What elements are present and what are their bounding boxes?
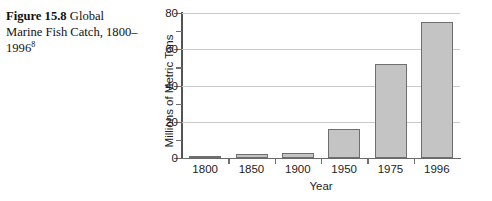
y-tick-label-60: 60 bbox=[148, 43, 178, 55]
y-tick-label-40: 40 bbox=[148, 80, 178, 92]
bar-chart: Millions of Metric Tons 020406080 180018… bbox=[150, 0, 492, 201]
y-tick-minor-70 bbox=[176, 31, 182, 32]
y-tick-minor-50 bbox=[176, 67, 182, 68]
figure-footnote-marker: 8 bbox=[31, 40, 35, 49]
x-tick-label-1850: 1850 bbox=[228, 163, 274, 175]
bar-slot-1850 bbox=[236, 13, 268, 158]
bar-series bbox=[182, 13, 460, 158]
bar-1975[interactable] bbox=[375, 64, 407, 158]
y-tick-minor-30 bbox=[176, 104, 182, 105]
y-tick-label-80: 80 bbox=[148, 7, 178, 19]
figure-caption: Figure 15.8 Global Marine Fish Catch, 18… bbox=[6, 8, 138, 57]
x-tick-label-1975: 1975 bbox=[367, 163, 413, 175]
bar-slot-1800 bbox=[189, 13, 221, 158]
bar-slot-1950 bbox=[328, 13, 360, 158]
x-tick-label-1900: 1900 bbox=[275, 163, 321, 175]
y-tick-label-20: 20 bbox=[148, 116, 178, 128]
figure-root: Figure 15.8 Global Marine Fish Catch, 18… bbox=[0, 0, 492, 201]
x-axis-label: Year bbox=[182, 180, 460, 192]
bar-slot-1900 bbox=[282, 13, 314, 158]
bar-1900[interactable] bbox=[282, 153, 314, 158]
figure-number: Figure 15.8 bbox=[6, 9, 67, 23]
x-tick-label-1950: 1950 bbox=[321, 163, 367, 175]
x-tick-label-1996: 1996 bbox=[414, 163, 460, 175]
bar-slot-1975 bbox=[375, 13, 407, 158]
bar-1850[interactable] bbox=[236, 154, 268, 158]
bar-1950[interactable] bbox=[328, 129, 360, 158]
plot-area bbox=[182, 13, 460, 158]
y-tick-minor-10 bbox=[176, 140, 182, 141]
bar-1996[interactable] bbox=[421, 22, 453, 158]
x-tick-label-1800: 1800 bbox=[182, 163, 228, 175]
bar-slot-1996 bbox=[421, 13, 453, 158]
bar-1800[interactable] bbox=[189, 156, 221, 159]
y-tick-label-0: 0 bbox=[148, 152, 178, 164]
